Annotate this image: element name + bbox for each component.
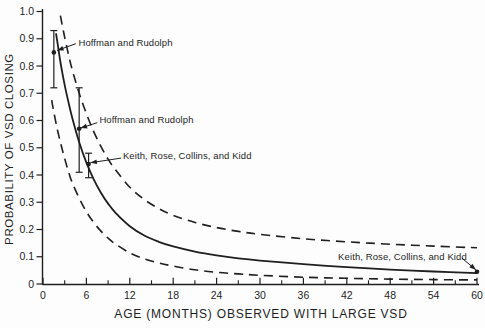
x-tick-label: 12	[124, 289, 136, 301]
y-tick-label: 0.1	[19, 250, 34, 262]
annotation-label: Keith, Rose, Collins, and Kidd	[338, 251, 467, 262]
y-tick-label: 0.6	[19, 114, 34, 126]
annotation-label: Hoffman and Rudolph	[78, 37, 172, 48]
curve-dashed-upper	[60, 16, 477, 248]
data-point-marker	[475, 269, 480, 274]
x-tick-label: 54	[428, 289, 440, 301]
x-tick-label: 60	[471, 289, 483, 301]
vsd-closure-chart: 00.10.20.30.40.50.60.70.80.91.0061218243…	[0, 0, 485, 328]
data-points	[50, 31, 479, 274]
x-tick-label: 18	[167, 289, 179, 301]
y-tick-label: 1.0	[19, 5, 34, 17]
curves	[52, 16, 477, 280]
y-tick-label: 0.2	[19, 223, 34, 235]
vsd-closure-probability-figure: 00.10.20.30.40.50.60.70.80.91.0061218243…	[0, 0, 485, 328]
x-tick-label: 36	[298, 289, 310, 301]
data-point-marker	[77, 126, 82, 131]
x-tick-label: 30	[254, 289, 266, 301]
y-tick-label: 0.8	[19, 60, 34, 72]
curve-solid-estimated	[56, 33, 477, 273]
y-tick-label: 0.9	[19, 32, 34, 44]
y-tick-label: 0	[28, 278, 34, 290]
y-tick-label: 0.3	[19, 196, 34, 208]
x-axis-title: AGE (MONTHS) OBSERVED WITH LARGE VSD	[114, 307, 407, 321]
y-tick-label: 0.4	[19, 169, 34, 181]
annotation-label: Hoffman and Rudolph	[99, 114, 193, 125]
x-tick-label: 42	[341, 289, 353, 301]
annotation-arrowhead-icon	[81, 124, 88, 129]
data-point-marker	[86, 162, 91, 167]
x-tick-label: 24	[211, 289, 223, 301]
annotation-label: Keith, Rose, Collins, and Kidd	[123, 150, 252, 161]
y-axis-title: PROBABILITY OF VSD CLOSING	[3, 53, 15, 245]
y-tick-label: 0.5	[19, 141, 34, 153]
x-tick-label: 48	[384, 289, 396, 301]
x-tick-label: 0	[40, 289, 46, 301]
data-point-marker	[52, 50, 57, 55]
y-tick-label: 0.7	[19, 87, 34, 99]
annotation-arrowhead-icon	[90, 159, 97, 164]
x-tick-label: 6	[83, 289, 89, 301]
